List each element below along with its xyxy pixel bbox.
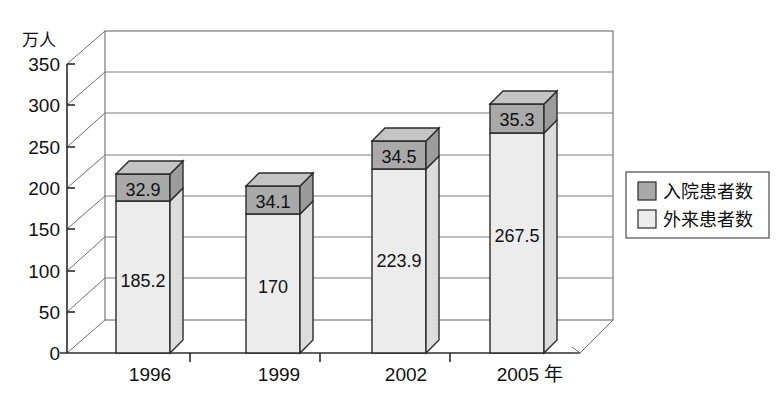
- bar-2002-outpatient-side[interactable]: [426, 156, 439, 353]
- depth-line-200: [67, 155, 105, 188]
- bar-group-2005[interactable]: 35.3 267.5: [490, 91, 557, 353]
- bar-2005-inpatient-value: 35.3: [499, 110, 534, 130]
- chart-legend: 入院患者数 外来患者数: [626, 172, 769, 238]
- bar-1999-outpatient-side[interactable]: [300, 201, 313, 353]
- bar-1996-inpatient-value: 32.9: [125, 180, 160, 200]
- axis-arrow: [572, 347, 580, 353]
- bar-chart-3d: 万人 350 300 250 200 150 100 50 0 1996 199…: [0, 0, 784, 393]
- bar-1999-outpatient-value: 170: [258, 277, 288, 297]
- chart-container: 万人 350 300 250 200 150 100 50 0 1996 199…: [0, 0, 784, 393]
- bar-2005-outpatient-side[interactable]: [544, 120, 557, 353]
- y-tick-label-150: 150: [28, 219, 60, 240]
- x-tick-label-2005: 2005 年: [497, 364, 564, 385]
- y-tick-label-0: 0: [49, 343, 60, 364]
- y-tick-label-100: 100: [28, 261, 60, 282]
- depth-line-300: [67, 72, 105, 105]
- x-tick-label-2002: 2002: [385, 364, 427, 385]
- depth-line-0: [67, 320, 105, 353]
- legend-swatch-outpatient[interactable]: [638, 210, 656, 228]
- y-axis-unit-label: 万人: [22, 31, 56, 50]
- bar-2005-outpatient-value: 267.5: [494, 226, 539, 246]
- bar-1996-outpatient-value: 185.2: [120, 271, 165, 291]
- bar-group-1999[interactable]: 34.1 170: [246, 173, 313, 353]
- legend-label-outpatient: 外来患者数: [663, 210, 753, 230]
- y-tick-label-350: 350: [28, 54, 60, 75]
- depth-line-100: [67, 237, 105, 271]
- y-tick-label-300: 300: [28, 95, 60, 116]
- depth-line-150: [67, 196, 105, 229]
- bar-group-2002[interactable]: 34.5 223.9: [372, 128, 439, 353]
- y-tick-label-200: 200: [28, 178, 60, 199]
- bar-group-1996[interactable]: 32.9 185.2: [116, 161, 183, 353]
- legend-swatch-inpatient[interactable]: [638, 182, 656, 200]
- depth-line-250: [67, 113, 105, 147]
- depth-line-350: [67, 31, 105, 64]
- legend-label-inpatient: 入院患者数: [663, 182, 753, 202]
- y-tick-label-250: 250: [28, 137, 60, 158]
- floor-right-edge: [580, 320, 613, 353]
- bar-1996-outpatient-side[interactable]: [170, 188, 183, 353]
- bar-2002-inpatient-value: 34.5: [381, 147, 416, 167]
- x-tick-label-1996: 1996: [129, 364, 171, 385]
- bar-2002-outpatient-value: 223.9: [376, 251, 421, 271]
- bar-1999-inpatient-value: 34.1: [255, 192, 290, 212]
- depth-line-50: [67, 278, 105, 312]
- y-tick-label-50: 50: [39, 302, 60, 323]
- x-tick-label-1999: 1999: [258, 364, 300, 385]
